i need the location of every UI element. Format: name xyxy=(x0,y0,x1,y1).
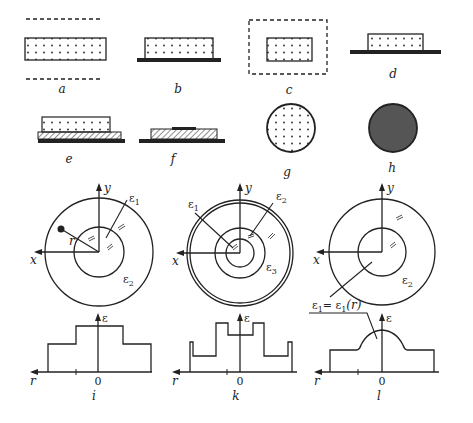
eps-axis-label: ε xyxy=(102,312,108,325)
radius-line xyxy=(61,229,99,252)
panel-b: b xyxy=(137,38,221,96)
y-axis-label: y xyxy=(103,181,111,195)
panel-f: f xyxy=(139,127,225,166)
eps2-label: ε2 xyxy=(123,273,134,288)
dotted-slab xyxy=(42,117,110,132)
panel-a: a xyxy=(25,19,106,96)
panel-g: g xyxy=(267,104,315,179)
panel-label-d: d xyxy=(389,67,397,81)
substrate-line xyxy=(350,50,441,54)
y-axis-arrow xyxy=(96,183,102,191)
r-axis-label: r xyxy=(314,374,321,388)
dotted-core xyxy=(267,38,312,61)
origin-label: 0 xyxy=(95,375,102,388)
y-axis-label: y xyxy=(386,181,394,195)
formula-leader xyxy=(309,313,377,339)
panel-label-e: e xyxy=(65,152,72,166)
substrate xyxy=(139,139,225,143)
panel-label-b: b xyxy=(174,82,182,96)
panel-h: h xyxy=(369,104,417,175)
dotted-slab xyxy=(145,38,213,59)
dotted-slab xyxy=(25,38,106,60)
eps1-formula: ε1= ε1(r) xyxy=(312,298,362,314)
origin-label: 0 xyxy=(237,375,244,388)
eps1-leader xyxy=(106,200,127,238)
y-axis-label: y xyxy=(244,181,252,195)
panel-label-f: f xyxy=(170,152,178,166)
panel-label-i: i xyxy=(92,389,96,403)
fiber-waveguide-diagram: a b c d e f g h xyxy=(0,0,473,423)
panel-label-k: k xyxy=(232,389,239,403)
x-axis-label: x xyxy=(172,254,179,268)
panel-label-g: g xyxy=(283,165,291,179)
eps2-label: ε2 xyxy=(402,274,413,289)
panel-i-profile: ε r 0 i xyxy=(30,312,152,403)
w-profile xyxy=(190,323,292,372)
x-axis-label: x xyxy=(313,253,320,267)
dark-strip xyxy=(172,127,196,130)
radius-point xyxy=(58,226,65,233)
eps1-leader xyxy=(195,213,233,248)
dotted-strip xyxy=(368,34,423,51)
panel-k-cross-section: y x ε1 ε2 ε3 xyxy=(172,181,293,306)
panel-k-profile: ε r 0 k xyxy=(172,312,297,403)
origin-label: 0 xyxy=(379,375,386,388)
eps3-label: ε3 xyxy=(266,261,277,276)
panel-l-cross-section: y x ε2 xyxy=(313,181,435,305)
panel-e: e xyxy=(38,117,125,166)
panel-label-h: h xyxy=(388,161,396,175)
dotted-circle xyxy=(267,104,315,152)
panel-i-cross-section: y x r ε1 ε2 xyxy=(30,181,153,306)
eps1-label: ε1 xyxy=(188,198,199,213)
eps-axis-label: ε xyxy=(244,312,250,325)
panel-d: d xyxy=(350,34,441,81)
r-axis-label: r xyxy=(30,374,37,388)
r-axis-label: r xyxy=(172,374,179,388)
substrate xyxy=(137,58,221,62)
eps-axis-label: ε xyxy=(386,312,392,325)
substrate xyxy=(38,139,125,143)
hatched-layer xyxy=(151,129,217,139)
eps1-label: ε1 xyxy=(129,192,140,207)
panel-label-c: c xyxy=(286,83,293,97)
panel-l-profile: ε1= ε1(r) ε r 0 l xyxy=(309,298,439,403)
panel-label-l: l xyxy=(377,389,381,403)
panel-c: c xyxy=(249,20,327,97)
eps2-label: ε2 xyxy=(276,190,287,205)
filled-circle xyxy=(369,104,417,152)
hatched-layer xyxy=(38,132,121,139)
x-axis-label: x xyxy=(30,253,37,267)
panel-label-a: a xyxy=(58,82,65,96)
step-index-profile xyxy=(48,326,151,372)
